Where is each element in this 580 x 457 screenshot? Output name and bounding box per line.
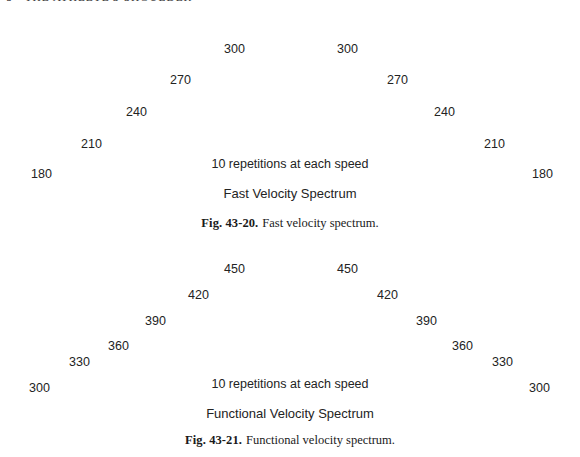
speed-label: 270 bbox=[170, 74, 191, 87]
figure-caption: Fig. 43-20.Fast velocity spectrum. bbox=[0, 216, 580, 231]
speed-label: 270 bbox=[387, 74, 408, 87]
speed-label: 210 bbox=[81, 138, 102, 151]
figure-caption-text: Fast velocity spectrum. bbox=[262, 216, 378, 230]
speed-label: 390 bbox=[145, 315, 166, 328]
spectrum-title: Fast Velocity Spectrum bbox=[0, 186, 580, 201]
speed-label: 330 bbox=[69, 356, 90, 369]
figure-functional-velocity-spectrum: 450 420 390 360 330 300 450 420 390 360 … bbox=[0, 248, 580, 453]
speed-label: 450 bbox=[224, 263, 245, 276]
running-head: 8THE ATHLETE'S SHOULDER bbox=[6, 0, 426, 5]
speed-label: 300 bbox=[337, 43, 358, 56]
figure-caption-text: Functional velocity spectrum. bbox=[246, 433, 395, 447]
speed-label: 420 bbox=[377, 289, 398, 302]
speed-label: 420 bbox=[188, 289, 209, 302]
running-head-title: THE ATHLETE'S SHOULDER bbox=[25, 0, 193, 3]
spectrum-diagram-fast: 300 270 240 210 180 300 270 240 210 180 bbox=[0, 18, 580, 168]
speed-label: 360 bbox=[108, 340, 129, 353]
repetitions-note: 10 repetitions at each speed bbox=[0, 157, 580, 171]
speed-label: 330 bbox=[492, 356, 513, 369]
speed-label: 360 bbox=[452, 340, 473, 353]
speed-label: 300 bbox=[224, 43, 245, 56]
figure-number: Fig. 43-21. bbox=[185, 433, 242, 447]
speed-label: 450 bbox=[337, 263, 358, 276]
speed-label: 240 bbox=[126, 106, 147, 119]
speed-label: 210 bbox=[484, 138, 505, 151]
page-folio: 8 bbox=[6, 0, 13, 3]
spectrum-diagram-functional: 450 420 390 360 330 300 450 420 390 360 … bbox=[0, 248, 580, 398]
speed-label: 390 bbox=[416, 315, 437, 328]
figure-caption: Fig. 43-21.Functional velocity spectrum. bbox=[0, 433, 580, 448]
figure-fast-velocity-spectrum: 300 270 240 210 180 300 270 240 210 180 … bbox=[0, 18, 580, 223]
spectrum-title: Functional Velocity Spectrum bbox=[0, 406, 580, 421]
repetitions-note: 10 repetitions at each speed bbox=[0, 377, 580, 391]
figure-number: Fig. 43-20. bbox=[201, 216, 258, 230]
speed-label: 240 bbox=[434, 106, 455, 119]
